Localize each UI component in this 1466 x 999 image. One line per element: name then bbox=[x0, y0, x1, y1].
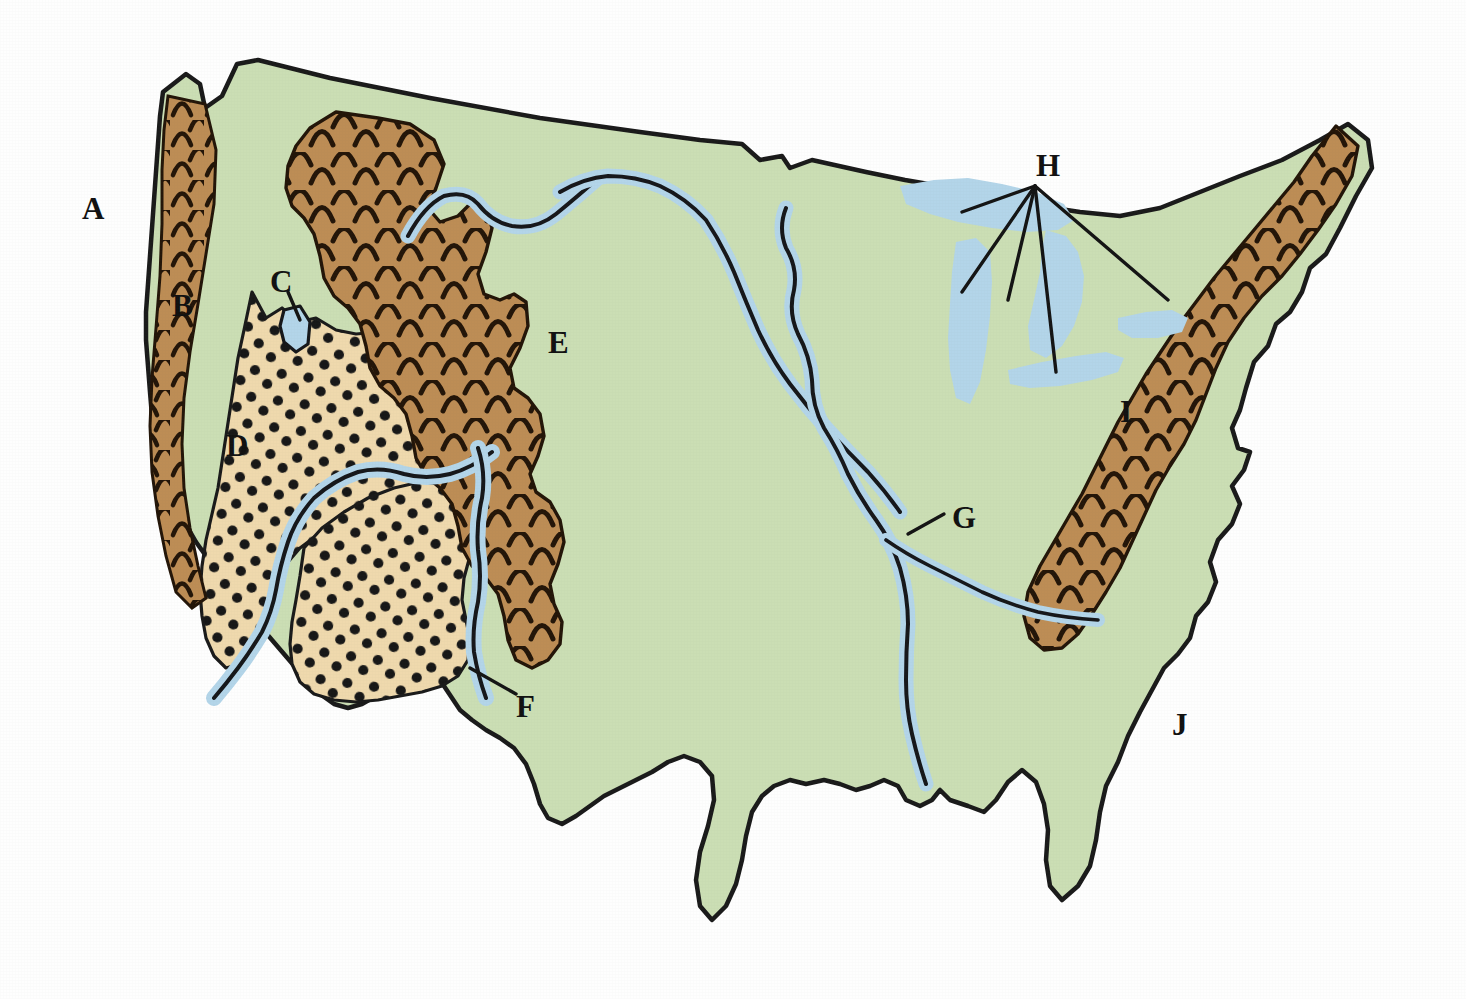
map-label-E[interactable]: E bbox=[548, 327, 569, 358]
map-label-G[interactable]: G bbox=[952, 502, 976, 533]
map-canvas bbox=[0, 0, 1466, 999]
map-label-A[interactable]: A bbox=[82, 193, 104, 224]
physical-map-of-united-states: A B C D E F G H I J bbox=[0, 0, 1466, 999]
map-label-H[interactable]: H bbox=[1036, 150, 1060, 181]
map-label-C[interactable]: C bbox=[270, 266, 292, 297]
map-label-I[interactable]: I bbox=[1120, 396, 1132, 427]
map-label-F[interactable]: F bbox=[516, 691, 535, 722]
map-label-B[interactable]: B bbox=[172, 290, 193, 321]
map-label-D[interactable]: D bbox=[226, 430, 248, 461]
map-label-J[interactable]: J bbox=[1172, 709, 1188, 740]
